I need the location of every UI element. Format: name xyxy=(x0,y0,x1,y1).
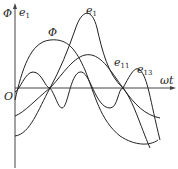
e1-label: e1 xyxy=(86,5,97,18)
waveform-diagram xyxy=(0,0,178,169)
e13-curve xyxy=(15,69,160,140)
y-axis-label-e1: e1 xyxy=(19,7,30,20)
phi-label: Φ xyxy=(48,27,57,38)
y-axis-arrow-icon xyxy=(13,3,17,9)
e11-label: e11 xyxy=(114,57,129,70)
phi-curve xyxy=(15,40,158,144)
x-axis-label: ωt xyxy=(160,75,173,86)
y-axis-label-phi: Φ xyxy=(3,8,12,19)
e1-curve xyxy=(15,13,150,148)
e13-label: e13 xyxy=(137,64,152,77)
origin-label: O xyxy=(4,91,13,102)
